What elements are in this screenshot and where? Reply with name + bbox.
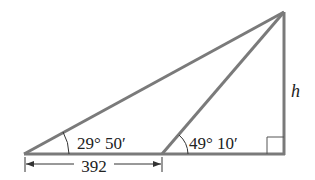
middle-angle-arc xyxy=(179,135,188,154)
diagram-canvas: 29° 50′ 49° 10′ h 392 xyxy=(0,0,315,180)
base-distance-label: 392 xyxy=(81,157,107,176)
triangle-diagram: 29° 50′ 49° 10′ h 392 xyxy=(0,0,315,180)
arrow-left-icon xyxy=(26,161,34,167)
inner-hypotenuse xyxy=(162,12,284,154)
left-angle-arc xyxy=(63,132,69,154)
angle-middle-label: 49° 10′ xyxy=(189,134,238,153)
right-angle-marker xyxy=(267,137,284,154)
arrow-right-icon xyxy=(153,161,161,167)
angle-left-label: 29° 50′ xyxy=(77,134,126,153)
height-label: h xyxy=(291,81,300,101)
